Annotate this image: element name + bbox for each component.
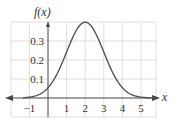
x-axis-left-arrow-icon <box>5 95 13 101</box>
x-tick-label: 2 <box>82 102 88 114</box>
y-axis-label: f(x) <box>34 5 51 19</box>
y-tick-label: 0.2 <box>30 54 44 66</box>
tick-labels: −1123450.10.20.3 <box>24 35 145 114</box>
x-tick-label: 5 <box>138 102 144 114</box>
y-tick-label: 0.3 <box>30 35 44 47</box>
x-tick-label: 3 <box>101 102 107 114</box>
x-tick-label: 1 <box>64 102 70 114</box>
y-tick-label: 0.1 <box>30 73 44 85</box>
normal-curve-chart: −1123450.10.20.3 f(x) x <box>0 0 178 122</box>
x-axis-label: x <box>161 90 168 104</box>
x-tick-label: 4 <box>120 102 126 114</box>
x-tick-label: −1 <box>24 102 36 114</box>
